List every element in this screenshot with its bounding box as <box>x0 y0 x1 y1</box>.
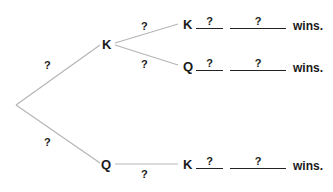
branch-label-q-k: ? <box>141 169 148 180</box>
outcome-3-blank-2: ? <box>230 156 286 169</box>
node-q: Q <box>101 158 111 171</box>
outcome-2-blank-2: ? <box>230 58 286 71</box>
outcome-1-blank-1: ? <box>196 16 223 29</box>
outcome-3-blank-1: ? <box>196 156 223 169</box>
outcome-2-wins: wins. <box>293 62 323 74</box>
outcome-1-blank-2: ? <box>230 16 286 29</box>
outcome-1-node: K <box>183 18 192 31</box>
branch-label-k-k: ? <box>141 21 148 32</box>
outcome-2-node: Q <box>183 60 193 73</box>
outcome-2-blank-1: ? <box>196 58 223 71</box>
branch-label-root-k: ? <box>44 60 51 71</box>
outcome-3-wins: wins. <box>293 160 323 172</box>
branch-label-root-q: ? <box>44 137 51 148</box>
outcome-3-node: K <box>183 158 192 171</box>
outcome-1-wins: wins. <box>293 20 323 32</box>
node-k: K <box>102 38 111 51</box>
branch-label-k-q: ? <box>141 59 148 70</box>
